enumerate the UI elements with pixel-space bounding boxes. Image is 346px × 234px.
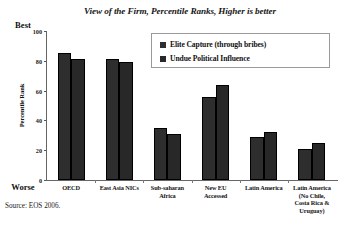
x-axis-label-line: Uruguay)	[282, 207, 342, 215]
x-axis-label-line: Costa Rica &	[282, 199, 342, 207]
x-axis-label-line: Latin America	[282, 184, 342, 192]
y-axis-title: Percentile Rank	[18, 61, 25, 151]
x-tick-mark	[240, 180, 241, 183]
bar	[71, 59, 85, 180]
bar	[167, 134, 181, 180]
x-tick-mark	[95, 180, 96, 183]
bar	[119, 62, 133, 180]
bar	[154, 128, 168, 180]
x-axis-label-line: Accessed	[186, 192, 246, 200]
x-axis-labels: OECDEast Asia NICsSub-saharanAfricaNew E…	[47, 184, 336, 232]
x-axis-label: Latin America(No Chile,Costa Rica &Urugu…	[282, 184, 342, 214]
legend-swatch-icon	[160, 42, 166, 48]
bar	[250, 137, 264, 180]
bar-group	[47, 31, 95, 180]
bar	[264, 132, 278, 180]
bar	[312, 143, 326, 180]
x-tick-mark	[192, 180, 193, 183]
x-tick-mark	[288, 180, 289, 183]
bar	[58, 53, 72, 180]
bar	[106, 59, 120, 180]
chart-title: View of the Firm, Percentile Ranks, High…	[52, 6, 308, 16]
legend-item: Elite Capture (through bribes)	[160, 38, 323, 51]
bar	[202, 97, 216, 180]
legend-item: Undue Political Influence	[160, 52, 323, 65]
chart-figure: View of the Firm, Percentile Ranks, High…	[0, 0, 346, 234]
axis-anchor-best: Best	[2, 20, 44, 30]
chart-legend: Elite Capture (through bribes)Undue Poli…	[151, 33, 330, 68]
bar	[298, 149, 312, 180]
bar-group	[95, 31, 143, 180]
x-axis-label-line: (No Chile,	[282, 192, 342, 200]
legend-label: Undue Political Influence	[170, 54, 250, 63]
axis-anchor-worse: Worse	[2, 182, 44, 192]
legend-label: Elite Capture (through bribes)	[170, 40, 266, 49]
legend-swatch-icon	[160, 56, 166, 62]
x-tick-mark	[143, 180, 144, 183]
source-note: Source: EOS 2006.	[5, 202, 60, 210]
bar	[216, 85, 230, 180]
